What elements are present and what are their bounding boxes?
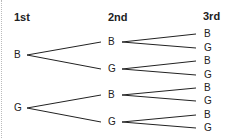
node-2nd-gb: B [108,89,115,100]
node-3rd-7: B [204,109,211,120]
node-2nd-bb: B [108,36,115,47]
node-1st-b: B [14,49,21,60]
node-3rd-4: G [204,69,212,80]
branch-line [122,61,196,69]
node-1st-g: G [14,102,22,113]
branch-line [122,69,196,75]
branch-line [27,55,101,69]
branch-line [122,115,196,122]
branch-line [27,108,101,122]
tree-diagram: 1st 2nd 3rd B G B G B G B G B G B G B G [0,0,231,138]
branch-line [122,122,196,128]
branch-line [27,42,101,55]
node-3rd-1: B [204,28,211,39]
node-3rd-3: B [204,55,211,66]
branch-line [122,42,196,48]
branch-line [122,34,196,42]
node-3rd-2: G [204,42,212,53]
node-3rd-6: G [204,95,212,106]
node-3rd-8: G [204,122,212,133]
branch-line [122,95,196,101]
branch-line [27,95,101,108]
node-3rd-5: B [204,82,211,93]
node-2nd-bg: G [108,63,116,74]
branch-line [122,88,196,95]
node-2nd-gg: G [108,116,116,127]
